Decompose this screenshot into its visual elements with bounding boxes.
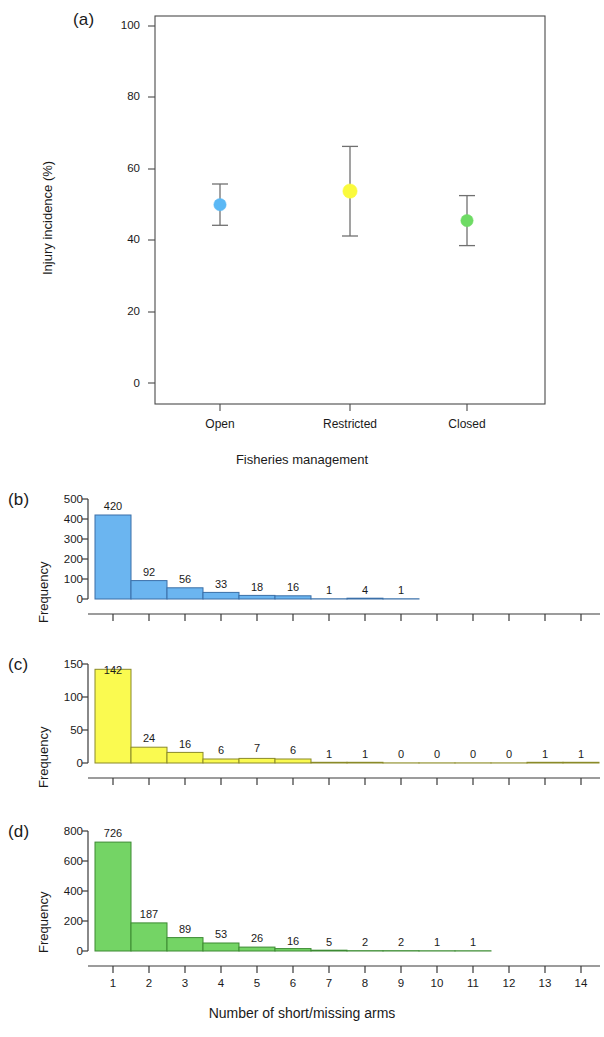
panel-d-xlabel: Number of short/missing arms	[0, 1005, 604, 1021]
panel-d-xtick-14: 14	[556, 977, 604, 989]
panel-d-ytick-marks	[82, 831, 88, 951]
panel-d-xtick-marks	[113, 966, 581, 973]
panel-d-label-1: 726	[83, 827, 143, 839]
panel-d-label-11: 1	[443, 936, 503, 948]
panel-d-plot	[0, 0, 604, 1037]
panel-d-label-2: 187	[119, 908, 179, 920]
figure-root: (a) Injury incidence (%) 100 80 60 40 20…	[0, 0, 604, 1037]
